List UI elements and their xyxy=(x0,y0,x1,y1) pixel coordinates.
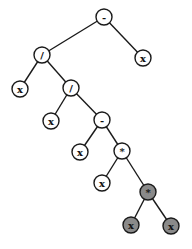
node-label: x xyxy=(17,84,24,95)
tree-node-n7: x xyxy=(72,144,88,160)
node-label: x xyxy=(168,221,175,232)
node-label: / xyxy=(69,83,73,94)
tree-node-n0: - xyxy=(96,9,112,25)
tree-node-n11: x xyxy=(123,217,139,233)
node-label: x xyxy=(140,53,147,64)
tree-node-n5: x xyxy=(43,113,59,129)
tree-node-n12: x xyxy=(163,218,179,234)
tree-node-n6: - xyxy=(94,112,110,128)
tree-node-n1: / xyxy=(34,47,50,63)
tree-node-n4: / xyxy=(63,80,79,96)
node-label: x xyxy=(77,147,84,158)
tree-node-n10: * xyxy=(140,184,156,200)
node-label: - xyxy=(100,115,104,126)
node-label: / xyxy=(40,50,44,61)
node-label: * xyxy=(145,187,151,198)
expression-tree: -/xx/x-x*x*xx xyxy=(0,0,192,249)
tree-node-n9: x xyxy=(94,175,110,191)
tree-edge xyxy=(42,17,104,55)
tree-node-n3: x xyxy=(12,81,28,97)
node-label: - xyxy=(102,12,106,23)
node-label: * xyxy=(119,146,125,157)
tree-node-n2: x xyxy=(135,50,151,66)
node-label: x xyxy=(128,220,135,231)
node-label: x xyxy=(48,116,55,127)
tree-node-n8: * xyxy=(114,143,130,159)
node-label: x xyxy=(99,178,106,189)
